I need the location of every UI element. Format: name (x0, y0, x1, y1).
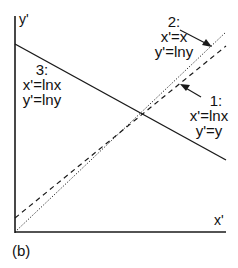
line-2-label: 2: x'=x y'=lny (138, 14, 210, 59)
line-3-eq-y: y'=lny (12, 92, 72, 107)
line-1-eq-y: y'=y (180, 123, 238, 138)
panel-label: (b) (12, 244, 30, 258)
y-axis-label: y' (19, 12, 29, 26)
line-2-number: 2: (138, 14, 210, 29)
line-2-eq-y: y'=lny (138, 44, 210, 59)
line-1-number: 1: (180, 93, 238, 108)
x-axis-label: x' (214, 213, 224, 227)
line-2-eq-x: x'=x (138, 29, 210, 44)
line-3-number: 3: (12, 62, 72, 77)
line-1-label: 1: x'=lnx y'=y (180, 93, 238, 138)
line-3-eq-x: x'=lnx (12, 77, 72, 92)
line-1-eq-x: x'=lnx (180, 108, 238, 123)
line-3-label: 3: x'=lnx y'=lny (12, 62, 72, 107)
